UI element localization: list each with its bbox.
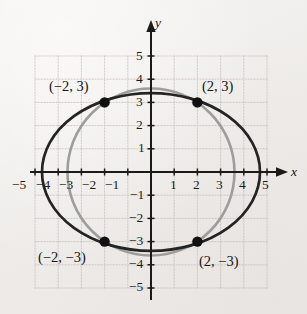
x-tick-label--5: −5 [12,178,26,192]
y-tick-label-4: 4 [136,72,143,86]
point-marker-lower-left [99,236,109,246]
point-label-upper-left: (−2, 3) [49,79,89,94]
point-label-upper-right: (2, 3) [202,79,233,94]
x-tick-label--1: −1 [105,178,119,192]
point-label-lower-right: (2, −3) [199,254,239,269]
x-tick-label-4: 4 [239,178,246,192]
x-axis-label: x [291,165,297,179]
x-tick-label-1: 1 [170,178,177,192]
point-marker-lower-right [192,236,202,246]
y-tick-label--2: −2 [129,211,143,225]
y-tick-label--3: −3 [129,234,143,248]
x-tick-label--2: −2 [82,178,96,192]
point-marker-upper-left [99,97,109,107]
coordinate-plot [0,0,307,314]
y-tick-label-5: 5 [136,49,143,63]
x-tick-label--4: −4 [36,178,50,192]
x-axis-arrowhead [276,167,288,176]
y-tick-label-1: 1 [138,141,145,155]
y-tick-label-2: 2 [136,118,143,132]
y-tick-label-3: 3 [136,95,143,109]
x-tick-label--3: −3 [59,178,73,192]
y-axis-label: y [155,16,161,30]
x-tick-label-2: 2 [193,178,200,192]
y-tick-label--5: −5 [129,280,143,294]
y-tick-label--4: −4 [129,257,143,271]
x-tick-label-5: 5 [262,178,269,192]
point-marker-upper-right [192,97,202,107]
point-label-lower-left: (−2, −3) [38,250,86,265]
x-tick-label-3: 3 [216,178,223,192]
y-tick-label--1: −1 [130,188,144,202]
figure-canvas: −5 −4 −3 −2 −1 1 2 3 4 5 5 4 3 2 1 −1 −2… [0,0,307,314]
